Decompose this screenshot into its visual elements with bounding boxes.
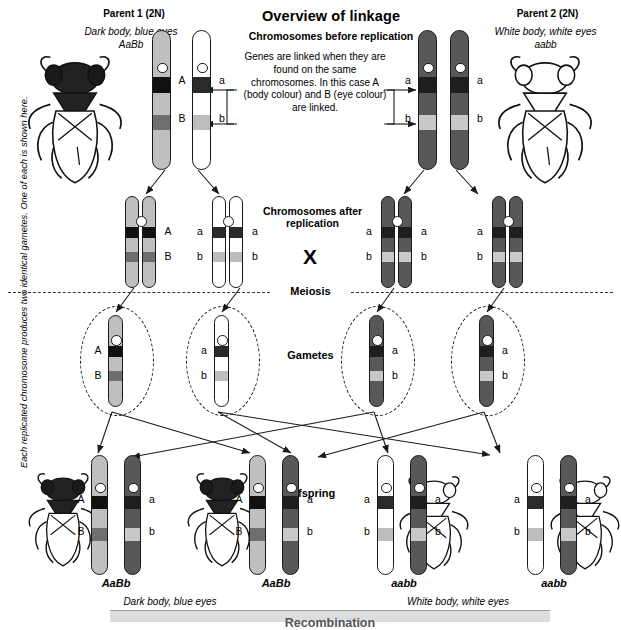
replicated-3-chromatid-2 [398, 196, 412, 288]
o4c2-allele-b-right: b [581, 525, 595, 537]
band-a [493, 227, 505, 238]
offspring-2-chromosome-2-centromere [286, 483, 296, 493]
p2c1-allele-a-left: a [401, 74, 415, 86]
o2c1-allele-b-left: B [232, 525, 246, 537]
parent-2-chromosome-2-centromere [455, 63, 465, 73]
offspring-4-chromosome-2 [560, 455, 577, 575]
o3c1-allele-a-left: a [360, 493, 374, 505]
band-b [283, 528, 298, 541]
o4c1-allele-b-left: b [510, 525, 524, 537]
r4-allele-b-left: b [473, 250, 487, 262]
r1-allele-a-right: A [161, 225, 175, 237]
p1c2-allele-a-right: a [215, 74, 229, 86]
offspring-genotype-3: aabb [368, 577, 440, 589]
gamete-oval-2 [186, 306, 260, 416]
band-b [92, 528, 107, 541]
p2c2-allele-a-right: a [473, 74, 487, 86]
p2c1-allele-b-left: b [401, 112, 415, 124]
band-a [92, 496, 107, 510]
gamete-chromosome-1-centromere [111, 335, 121, 345]
band-b [510, 252, 522, 262]
replicated-1-centromere [136, 216, 147, 227]
p2c2-allele-b-right: b [473, 112, 487, 124]
gamete-oval-4 [451, 306, 525, 416]
o2c2-allele-b-right: b [303, 525, 317, 537]
band-b [125, 528, 140, 541]
band-a [193, 77, 210, 93]
band-a [213, 227, 225, 238]
band-a [143, 227, 155, 238]
offspring-1-chromosome-1 [91, 455, 108, 575]
o1c2-allele-b-right: b [145, 525, 159, 537]
p1c1-allele-a-right: A [175, 74, 189, 86]
band-b [378, 528, 393, 541]
band-b [382, 252, 394, 262]
o2c1-allele-a-left: A [232, 493, 246, 505]
band-a [283, 496, 298, 510]
gamete-chromosome-3-centromere [372, 335, 382, 345]
offspring-4-chromosome-2-centromere [564, 483, 574, 493]
gamete-oval-1 [80, 306, 154, 416]
r2-allele-b-right: b [248, 250, 262, 262]
r2-allele-a-right: a [248, 225, 262, 237]
offspring-genotype-2: AaBb [240, 577, 312, 589]
parent-1-chromosome-2-centromere [197, 63, 207, 73]
offspring-genotype-4: aabb [518, 577, 590, 589]
band-a [561, 496, 576, 510]
o3c2-allele-b-right: b [431, 525, 445, 537]
offspring-2-chromosome-2 [282, 455, 299, 575]
band-a [126, 227, 138, 238]
r3-allele-a-left: a [362, 225, 376, 237]
band-a [382, 227, 394, 238]
offspring-3-chromosome-1-centromere [381, 483, 391, 493]
band-b [561, 528, 576, 541]
band-a [153, 77, 170, 93]
band-b [493, 252, 505, 262]
gamete-chromosome-2-centromere [217, 335, 227, 345]
band-a [510, 227, 522, 238]
replicated-3-chromatid-1 [381, 196, 395, 288]
band-b [230, 252, 242, 262]
offspring-3-chromosome-2 [410, 455, 427, 575]
replicated-3-centromere [392, 216, 403, 227]
replicated-1-chromatid-1 [125, 196, 139, 288]
o4c1-allele-a-left: a [510, 493, 524, 505]
parent-2-chromosome-1 [418, 30, 437, 170]
replicated-2-centromere [223, 216, 234, 227]
offspring-3-chromosome-2-centromere [414, 483, 424, 493]
o4c2-allele-a-right: a [581, 493, 595, 505]
offspring-3-chromosome-1 [377, 455, 394, 575]
r2-allele-a-left: a [193, 225, 207, 237]
offspring-4-chromosome-1-centromere [531, 483, 541, 493]
o2c2-allele-a-right: a [303, 493, 317, 505]
offspring-1-chromosome-2 [124, 455, 141, 575]
band-a [250, 496, 265, 510]
band-b [250, 528, 265, 541]
offspring-1-chromosome-2-centromere [128, 483, 138, 493]
offspring-4-chromosome-1 [527, 455, 544, 575]
replicated-2-chromatid-1 [212, 196, 226, 288]
gamete-chromosome-4-centromere [482, 335, 492, 345]
o1c1-allele-a-left: A [74, 493, 88, 505]
parent-2-chromosome-2 [450, 30, 469, 170]
band-b [153, 115, 170, 130]
band-a [451, 77, 468, 93]
o3c2-allele-a-right: a [431, 493, 445, 505]
parent-1-chromosome-1-centromere [157, 63, 167, 73]
band-b [411, 528, 426, 541]
band-b [419, 115, 436, 130]
band-a [528, 496, 543, 510]
band-a [230, 227, 242, 238]
parent-2-chromosome-1-centromere [423, 63, 433, 73]
band-a [411, 496, 426, 510]
r3-allele-b-left: b [362, 250, 376, 262]
replicated-1-chromatid-2 [142, 196, 156, 288]
offspring-2-chromosome-1 [249, 455, 266, 575]
r4-allele-a-left: a [473, 225, 487, 237]
o1c1-allele-b-left: B [74, 525, 88, 537]
band-b [528, 528, 543, 541]
r1-allele-b-right: B [161, 250, 175, 262]
replicated-4-centromere [503, 216, 514, 227]
